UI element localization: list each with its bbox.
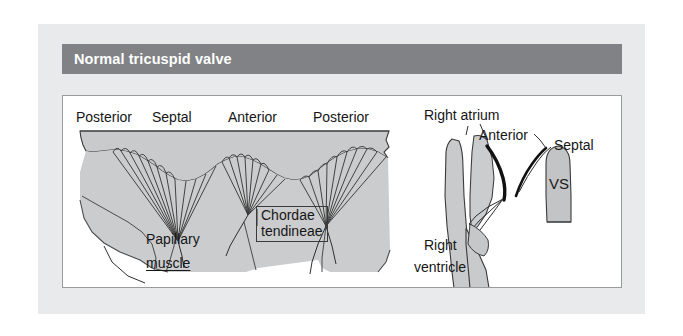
label-right-atrium: Right atrium <box>424 108 499 123</box>
title-band: Normal tricuspid valve <box>62 44 622 74</box>
label-papillary-line2: muscle <box>146 256 190 271</box>
label-chordae-box: Chordae tendineae <box>256 206 328 242</box>
label-vs: VS <box>549 176 569 192</box>
label-anterior-right-panel: Anterior <box>479 128 528 143</box>
label-septal-left: Septal <box>152 110 192 125</box>
label-septal-right-panel: Septal <box>554 138 594 153</box>
label-posterior-right: Posterior <box>313 110 369 125</box>
label-posterior-left: Posterior <box>76 110 132 125</box>
label-anterior-left: Anterior <box>228 110 277 125</box>
label-right-ventricle-line1: Right <box>424 238 457 253</box>
label-chordae-line2: tendineae <box>261 224 323 240</box>
label-right-ventricle-line2: ventricle <box>414 260 466 275</box>
figure-title: Normal tricuspid valve <box>74 51 232 67</box>
label-papillary-line1: Papillary <box>146 232 200 247</box>
figure-root: Normal tricuspid valve <box>0 0 683 336</box>
label-chordae-line1: Chordae <box>261 208 323 224</box>
